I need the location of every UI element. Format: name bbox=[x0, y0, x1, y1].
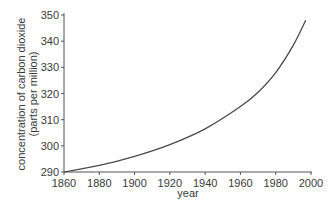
y-axis-title-line-2: (parts per million) bbox=[27, 52, 39, 137]
y-axis-ticks: 290300310320330340350 bbox=[41, 9, 64, 178]
x-tick-label: 1960 bbox=[228, 177, 252, 189]
x-tick-label: 1900 bbox=[122, 177, 146, 189]
co2-line bbox=[64, 20, 306, 172]
x-tick-label: 2000 bbox=[299, 177, 323, 189]
y-tick-label: 350 bbox=[41, 9, 59, 21]
x-tick-label: 1880 bbox=[87, 177, 111, 189]
y-tick-label: 320 bbox=[41, 88, 59, 100]
x-tick-label: 1980 bbox=[263, 177, 287, 189]
x-axis-title: year bbox=[177, 187, 199, 199]
y-tick-label: 330 bbox=[41, 61, 59, 73]
y-tick-label: 340 bbox=[41, 35, 59, 47]
x-tick-label: 1860 bbox=[52, 177, 76, 189]
y-axis-title: concentration of carbon dioxide (parts p… bbox=[15, 18, 39, 171]
y-tick-label: 300 bbox=[41, 140, 59, 152]
y-tick-label: 310 bbox=[41, 114, 59, 126]
y-axis-title-line-1: concentration of carbon dioxide bbox=[15, 18, 27, 171]
chart: 290300310320330340350 186018801900192019… bbox=[0, 0, 332, 210]
